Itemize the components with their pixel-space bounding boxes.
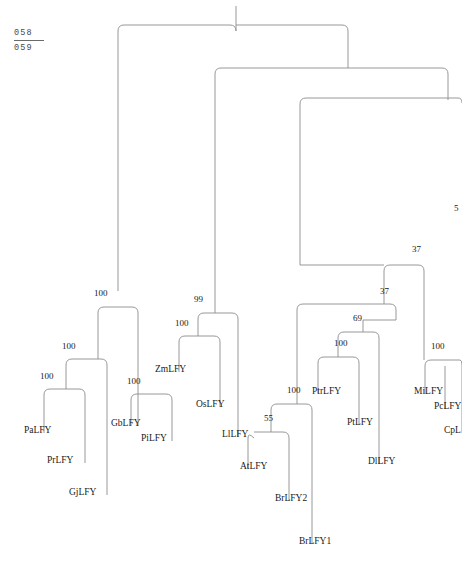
bootstrap-label-eudicot-inner: 37 <box>380 286 389 296</box>
bootstrap-label-clipped-right: 5 <box>454 203 459 213</box>
taxon-label-brlfy1: BrLFY1 <box>299 536 331 546</box>
bootstrap-label-eudicot-outer: 37 <box>412 244 421 254</box>
bootstrap-label-gblfy-pilfy: 100 <box>127 376 141 386</box>
taxon-label-ptlfy: PtLFY <box>347 417 373 427</box>
taxon-label-zmlfy: ZmLFY <box>155 364 186 374</box>
taxon-label-palfy: PaLFY <box>24 425 51 435</box>
bootstrap-label-zmlfy-oslfy: 100 <box>175 318 189 328</box>
bootstrap-label-monocot-root: 99 <box>194 294 203 304</box>
bootstrap-label-pinaceae: 100 <box>62 341 76 351</box>
taxon-label-cplfy: CpL <box>444 425 461 435</box>
taxon-label-brlfy2: BrLFY2 <box>275 493 307 503</box>
taxon-label-dllfy: DlLFY <box>368 456 395 466</box>
taxon-label-milfy: MiLFY <box>414 386 443 396</box>
taxon-label-prlfy: PrLFY <box>47 455 73 465</box>
taxon-label-atlfy: AtLFY <box>240 461 267 471</box>
figure-canvas: 058 059 <box>0 0 462 574</box>
bootstrap-label-brassica-root: 100 <box>287 385 301 395</box>
bootstrap-label-dllfy-clade: 69 <box>353 313 362 323</box>
bootstrap-label-atlfy-brlfy2: 55 <box>264 413 273 423</box>
taxon-label-pilfy: PiLFY <box>141 433 167 443</box>
taxon-label-pclfy: PcLFY <box>434 401 461 411</box>
bootstrap-label-milfy-pclfy: 100 <box>431 341 445 351</box>
bootstrap-label-gymnosperm-root: 100 <box>94 288 108 298</box>
bootstrap-label-ptrlfy-ptlfy: 100 <box>334 338 348 348</box>
bootstrap-label-palfy-prlfy: 100 <box>40 371 54 381</box>
taxon-label-ptrlfy: PtrLFY <box>312 386 341 396</box>
taxon-label-lllfy: LlLFY <box>222 429 248 439</box>
taxon-label-gjlfy: GjLFY <box>69 487 96 497</box>
taxon-label-oslfy: OsLFY <box>196 399 225 409</box>
taxon-label-gblfy: GbLFY <box>111 418 141 428</box>
